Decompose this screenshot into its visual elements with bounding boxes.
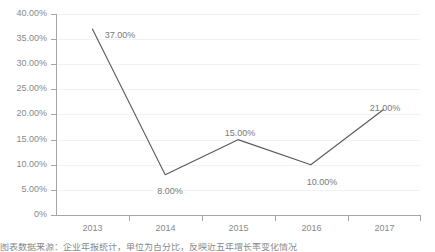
series-line <box>0 0 435 252</box>
data-label-2017: 21.00% <box>355 104 415 113</box>
data-label-2015: 15.00% <box>210 129 270 138</box>
line-chart: 40.00% 35.00% 30.00% 25.00% 20.00% 15.00… <box>0 0 435 252</box>
data-label-2013: 37.00% <box>90 31 150 40</box>
data-label-2016: 10.00% <box>292 178 352 187</box>
caption-sliver: 图表数据来源：企业年报统计，单位为百分比，反映近五年增长率变化情况 <box>0 243 435 252</box>
caption-text: 图表数据来源：企业年报统计，单位为百分比，反映近五年增长率变化情况 <box>0 243 435 252</box>
data-label-2014: 8.00% <box>140 187 200 196</box>
